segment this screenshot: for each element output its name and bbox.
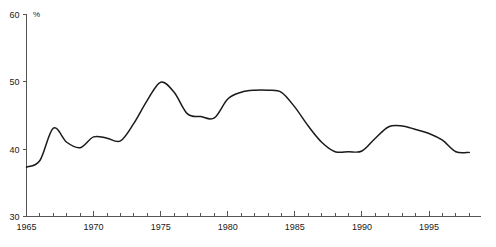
x-tick-label: 1995 xyxy=(419,222,439,232)
line-chart: 30405060 1965197019751980198519901995 % xyxy=(0,0,496,247)
y-tick-label: 50 xyxy=(9,77,19,87)
y-tick-label: 60 xyxy=(9,10,19,20)
y-tick-group: 30405060 xyxy=(9,10,26,223)
y-axis-unit-label: % xyxy=(33,10,40,19)
x-axis: 1965197019751980198519901995 xyxy=(16,211,481,232)
x-tick-label: 1975 xyxy=(151,222,171,232)
x-tick-label: 1985 xyxy=(285,222,305,232)
y-axis: 30405060 xyxy=(9,10,26,223)
chart-container: 30405060 1965197019751980198519901995 % xyxy=(0,0,496,247)
x-minor-tick-group xyxy=(27,213,470,217)
x-tick-label: 1990 xyxy=(352,222,372,232)
x-tick-label: 1970 xyxy=(84,222,104,232)
y-tick-label: 40 xyxy=(9,145,19,155)
x-tick-label: 1980 xyxy=(218,222,238,232)
y-tick-label: 30 xyxy=(9,212,19,222)
series-line-share xyxy=(27,82,470,167)
x-tick-label: 1965 xyxy=(16,222,36,232)
